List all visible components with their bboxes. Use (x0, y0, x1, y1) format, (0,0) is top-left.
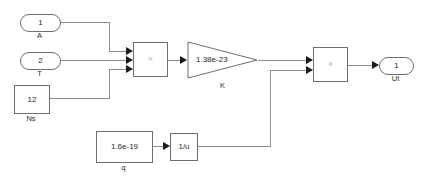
wire-ns-vertical (109, 69, 110, 98)
wire-a-vertical (109, 22, 110, 51)
product-block-1-symbol: × (148, 55, 153, 64)
gain-block-k-caption: K (187, 82, 258, 90)
constant-q-caption: q (96, 164, 151, 172)
arrowhead-outport-input (372, 61, 379, 69)
arrowhead-product2-input1 (306, 56, 313, 64)
arrowhead-product2-input2 (306, 66, 313, 74)
product-block-2-symbol: × (328, 60, 333, 69)
product-block-1[interactable]: × (133, 42, 168, 77)
product-block-2[interactable]: × (313, 47, 348, 82)
arrowhead-product1-input1 (126, 47, 133, 55)
constant-ns-caption: Ns (14, 115, 48, 123)
outport-ut-caption: Ut (379, 75, 412, 83)
gain-block-k[interactable]: 1.38e-23 (187, 41, 258, 79)
wire-ns-horizontal-bottom (48, 98, 110, 99)
reciprocal-block[interactable]: 1/u (170, 133, 198, 161)
inport-t-number: 2 (38, 57, 42, 65)
constant-block-ns[interactable]: 12 (14, 85, 50, 114)
wire-gain-to-product2 (258, 60, 312, 61)
gain-block-k-value: 1.38e-23 (196, 56, 228, 64)
arrowhead-gain-input (180, 56, 187, 64)
constant-ns-value: 12 (28, 96, 37, 104)
inport-t-caption: T (20, 70, 59, 78)
inport-a[interactable]: 1 (20, 14, 61, 32)
wire-reciprocal-horizontal-bottom (196, 146, 271, 147)
wire-t-horizontal (59, 60, 132, 61)
block-diagram-canvas: 1 A 2 T 12 Ns × 1.38e-23 K 1.6e-19 q 1/u… (0, 0, 423, 182)
arrowhead-product1-input3 (126, 65, 133, 73)
outport-ut[interactable]: 1 (379, 57, 414, 75)
constant-block-q[interactable]: 1.6e-19 (96, 131, 153, 163)
inport-a-caption: A (20, 32, 59, 40)
constant-q-value: 1.6e-19 (111, 143, 138, 151)
arrowhead-reciprocal-input (163, 142, 170, 150)
arrowhead-product1-input2 (126, 56, 133, 64)
inport-a-number: 1 (38, 19, 42, 27)
outport-ut-number: 1 (394, 62, 398, 70)
wire-reciprocal-vertical (270, 70, 271, 146)
inport-t[interactable]: 2 (20, 52, 61, 70)
reciprocal-block-value: 1/u (178, 143, 189, 151)
wire-a-horizontal-top (59, 22, 110, 23)
